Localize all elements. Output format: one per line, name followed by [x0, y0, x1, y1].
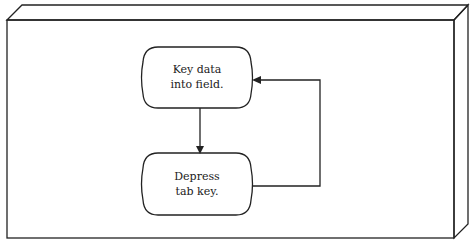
loop-back-line — [252, 80, 320, 186]
arrow-left-head-icon — [252, 76, 261, 84]
node-depress-tab-line-1: Depress — [141, 169, 253, 184]
node-key-data-line-2: into field. — [141, 77, 253, 92]
panel-side-face — [454, 5, 468, 238]
node-key-data-line-1: Key data — [141, 62, 253, 77]
node-key-data: Key data into field. — [141, 62, 253, 92]
panel-top-face — [7, 5, 468, 20]
diagram-canvas — [0, 0, 475, 245]
panel-front-face — [7, 20, 454, 238]
node-depress-tab-line-2: tab key. — [141, 184, 253, 199]
node-depress-tab: Depress tab key. — [141, 169, 253, 199]
